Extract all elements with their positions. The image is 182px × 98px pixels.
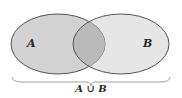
- set-a-label: A: [27, 37, 36, 50]
- union-caption: A ∪ B: [0, 83, 182, 94]
- set-b-label: B: [143, 37, 152, 50]
